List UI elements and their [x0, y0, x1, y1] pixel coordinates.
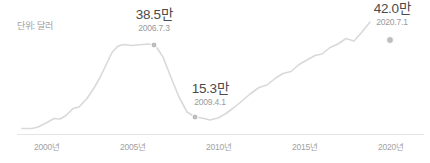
- x-tick-label: 2015년: [292, 140, 318, 152]
- annotation-trough: 15.3만 2009.4.1: [192, 81, 228, 108]
- annotation-trough-date: 2009.4.1: [192, 97, 228, 108]
- annotation-end-date: 2020.7.1: [374, 17, 410, 28]
- marker-trough[interactable]: [192, 114, 198, 120]
- annotation-end: 42.0만 2020.7.1: [374, 1, 410, 28]
- x-tick-label: 2010년: [206, 140, 232, 152]
- line-chart-panel: 단위: 달러 38.5만 2006.7.3 15.3만 2009.4.1 42.…: [0, 0, 430, 163]
- annotation-peak: 38.5만 2006.7.3: [136, 7, 172, 34]
- x-tick-label: 2005년: [120, 140, 146, 152]
- annotation-end-value: 42.0만: [374, 1, 410, 16]
- x-tick-label: 2000년: [34, 140, 60, 152]
- marker-peak[interactable]: [151, 42, 157, 48]
- marker-end[interactable]: [387, 37, 394, 44]
- annotation-peak-value: 38.5만: [136, 7, 172, 22]
- x-tick-label: 2020년: [378, 140, 404, 152]
- annotation-trough-value: 15.3만: [192, 81, 228, 96]
- unit-label: 단위: 달러: [17, 19, 53, 32]
- series-line-price: [22, 22, 370, 129]
- annotation-peak-date: 2006.7.3: [136, 23, 172, 34]
